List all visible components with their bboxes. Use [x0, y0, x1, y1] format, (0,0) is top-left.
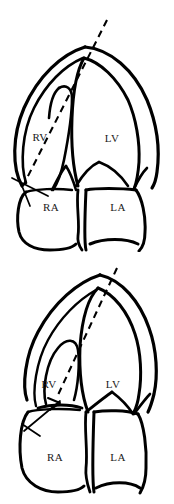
label-la-bottom: LA	[110, 451, 125, 463]
dashed-long-axis-bottom	[58, 268, 117, 395]
left-atrium-lateral-wall-top	[136, 190, 145, 251]
right-atrium-roof-top	[26, 189, 72, 192]
lv-cavity-right-bottom	[98, 288, 141, 412]
interatrial-septum-bottom	[85, 412, 90, 492]
left-atrium-lateral-wall-bottom	[138, 414, 146, 493]
left-atrium-septal-wall-bottom	[93, 412, 94, 492]
left-atrium-septal-wall-top	[85, 190, 86, 250]
label-rv-bottom: RV	[41, 378, 56, 390]
left-atrium-floor-top	[90, 240, 138, 245]
heart-panel-bottom: RV LV RA LA	[0, 252, 174, 504]
left-atrium-roof-bottom	[94, 411, 138, 414]
label-ra-bottom: RA	[47, 451, 63, 463]
label-rv-top: RV	[32, 131, 47, 143]
mitral-leaflet-septal-top	[76, 162, 99, 186]
right-atrium-roof-bottom	[28, 409, 80, 412]
label-lv-top: LV	[105, 132, 119, 144]
heart-outline-bottom: RV LV RA LA	[0, 252, 174, 504]
label-lv-bottom: LV	[106, 378, 120, 390]
interventricular-septum-bottom	[80, 288, 98, 412]
label-la-top: LA	[110, 201, 125, 213]
heart-outline-top: RV LV RA LA	[0, 0, 174, 252]
mitral-leaflet-lateral-top	[99, 162, 128, 186]
measurement-line-bottom	[24, 401, 60, 431]
rv-cavity-bottom	[45, 341, 79, 404]
label-ra-top: RA	[43, 201, 59, 213]
mitral-leaflet-septal-bottom	[86, 392, 112, 412]
left-atrium-roof-top	[86, 189, 136, 191]
tricuspid-valve-plane-bottom	[38, 405, 82, 408]
heart-panel-top: RV LV RA LA	[0, 0, 174, 252]
heart-diagram-figure: RV LV RA LA	[0, 0, 174, 504]
interatrial-septum-top	[77, 190, 82, 250]
tricuspid-leaflet-septal-top	[52, 166, 66, 190]
left-atrium-floor-bottom	[96, 483, 140, 488]
apex-tick-marker-top	[12, 178, 48, 196]
rv-cavity-notch-top	[49, 88, 59, 118]
